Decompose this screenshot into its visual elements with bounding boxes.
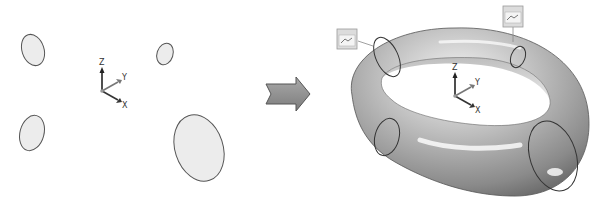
axis-label-y: Y — [121, 73, 127, 82]
profile-ellipse-3 — [16, 113, 48, 154]
transform-arrow-icon — [266, 77, 310, 111]
profile-ellipse-2 — [154, 41, 176, 67]
axis-label-x: X — [475, 106, 481, 115]
section-tag-left[interactable] — [337, 29, 373, 49]
profile-ellipse-1 — [18, 31, 49, 68]
loft-diagram: Z Y X — [0, 0, 612, 207]
lofted-torus-surface — [351, 28, 589, 197]
axis-label-z: Z — [452, 63, 458, 72]
axis-label-y: Y — [474, 78, 480, 87]
coordinate-triad-left: Z Y X — [99, 58, 128, 110]
axis-label-z: Z — [99, 58, 105, 67]
axis-label-x: X — [122, 101, 128, 110]
profile-ellipse-4 — [166, 108, 233, 188]
